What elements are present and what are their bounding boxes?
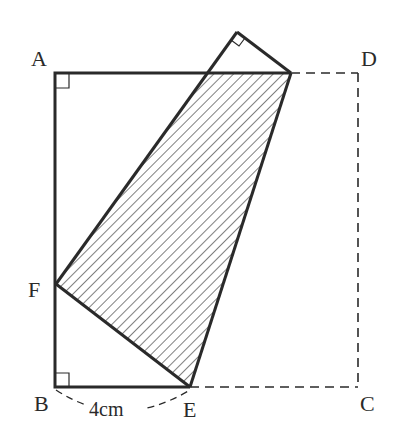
measurement-label: 4cm	[89, 398, 124, 420]
geometry-diagram: A D F B E C 4cm	[0, 0, 410, 432]
label-f: F	[28, 277, 40, 302]
right-angle-b-icon	[56, 373, 69, 386]
label-a: A	[31, 46, 47, 71]
label-e: E	[183, 397, 196, 422]
label-d: D	[361, 46, 377, 71]
shaded-region	[0, 0, 410, 432]
label-c: C	[360, 391, 375, 416]
label-b: B	[34, 391, 49, 416]
right-angle-a-icon	[56, 74, 69, 88]
